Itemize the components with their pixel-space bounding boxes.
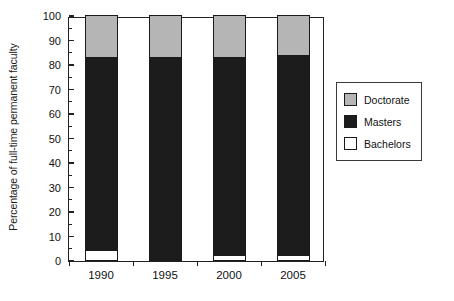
bar-2000[interactable]: [213, 16, 246, 261]
plot-area: 0102030405060708090100 1990199520002005: [68, 17, 324, 262]
bar-segment-1990-doctorate[interactable]: [85, 15, 118, 58]
y-tick-mark: [69, 187, 74, 188]
legend-label: Bachelors: [364, 138, 411, 150]
bar-segment-1995-doctorate[interactable]: [149, 15, 182, 58]
y-tick-mark: [69, 40, 74, 41]
y-tick-mark: [69, 138, 74, 139]
y-tick-label: 20: [49, 204, 61, 220]
y-tick-mark-minor: [69, 150, 72, 151]
y-tick-label: 60: [49, 106, 61, 122]
bar-1990[interactable]: [85, 16, 118, 261]
y-tick-mark: [69, 162, 74, 163]
y-tick-mark-minor: [69, 199, 72, 200]
chart-legend: DoctorateMastersBachelors: [336, 82, 422, 161]
x-tick-mark: [69, 261, 70, 266]
bar-segment-2005-masters[interactable]: [277, 55, 310, 256]
bar-2005[interactable]: [277, 16, 310, 261]
y-tick-label: 70: [49, 82, 61, 98]
y-tick-mark-minor: [69, 126, 72, 127]
y-tick-label: 0: [55, 253, 61, 269]
y-tick-label: 100: [43, 8, 61, 24]
y-tick-mark-minor: [69, 224, 72, 225]
chart-figure: Percentage of full-time permanent facult…: [0, 0, 454, 301]
bar-segment-1990-masters[interactable]: [85, 56, 118, 251]
y-tick-mark: [69, 113, 74, 114]
legend-item-bachelors[interactable]: Bachelors: [344, 134, 415, 153]
y-tick-label: 10: [49, 229, 61, 245]
x-axis-label-2005: 2005: [258, 269, 328, 281]
y-tick-mark-minor: [69, 101, 72, 102]
x-axis-label-1995: 1995: [130, 269, 200, 281]
y-tick-label: 80: [49, 57, 61, 73]
legend-swatch-doctorate: [344, 93, 357, 106]
y-tick-mark: [69, 211, 74, 212]
legend-label: Doctorate: [364, 94, 410, 106]
y-tick-mark: [69, 236, 74, 237]
y-tick-mark-minor: [69, 248, 72, 249]
bar-segment-2000-doctorate[interactable]: [213, 15, 246, 58]
y-tick-mark-minor: [69, 77, 72, 78]
legend-swatch-masters: [344, 115, 357, 128]
bar-segment-1990-bachelors[interactable]: [85, 250, 118, 261]
legend-item-doctorate[interactable]: Doctorate: [344, 90, 415, 109]
y-tick-label: 30: [49, 180, 61, 196]
y-tick-mark: [69, 89, 74, 90]
y-tick-mark: [69, 15, 74, 16]
bar-1995[interactable]: [149, 16, 182, 261]
y-tick-mark-minor: [69, 175, 72, 176]
bar-segment-2005-doctorate[interactable]: [277, 15, 310, 57]
y-tick-label: 50: [49, 131, 61, 147]
x-tick-mark: [197, 261, 198, 266]
y-tick-label: 90: [49, 33, 61, 49]
x-tick-mark: [261, 261, 262, 266]
y-tick-label: 40: [49, 155, 61, 171]
y-tick-mark-minor: [69, 28, 72, 29]
x-axis-label-1990: 1990: [66, 269, 136, 281]
y-tick-mark-minor: [69, 52, 72, 53]
bar-segment-1995-masters[interactable]: [149, 56, 182, 259]
y-axis-title: Percentage of full-time permanent facult…: [4, 2, 22, 272]
y-tick-mark: [69, 64, 74, 65]
x-axis-label-2000: 2000: [194, 269, 264, 281]
legend-swatch-bachelors: [344, 137, 357, 150]
bar-segment-2000-masters[interactable]: [213, 56, 246, 256]
legend-label: Masters: [364, 116, 401, 128]
x-tick-mark: [325, 261, 326, 266]
x-tick-mark: [133, 261, 134, 266]
legend-item-masters[interactable]: Masters: [344, 112, 415, 131]
